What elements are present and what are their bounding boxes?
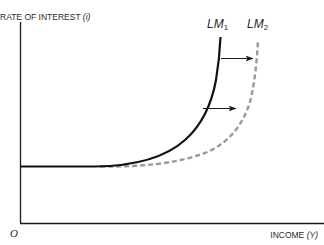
lm1-curve [21,37,221,167]
lm-curve-shift-diagram: RATE OF INTEREST (i) INCOME (Y) O LM1 LM… [0,0,324,245]
lm2-label: LM2 [247,17,268,32]
x-axis-title: INCOME (Y) [270,230,318,240]
y-axis-title: RATE OF INTEREST (i) [0,12,90,22]
lm2-label-sub: 2 [264,23,268,32]
x-axis-title-text: INCOME [270,230,304,240]
diagram-canvas [0,0,324,245]
origin-label: O [10,227,18,239]
x-axis-symbol: (Y) [307,230,318,240]
lm1-label-base: LM [207,17,224,31]
lm2-label-base: LM [247,17,264,31]
y-axis-title-text: RATE OF INTEREST [0,12,80,22]
y-axis-symbol: (i) [83,12,91,22]
lm1-label-sub: 1 [224,23,228,32]
lm1-label: LM1 [207,17,228,32]
